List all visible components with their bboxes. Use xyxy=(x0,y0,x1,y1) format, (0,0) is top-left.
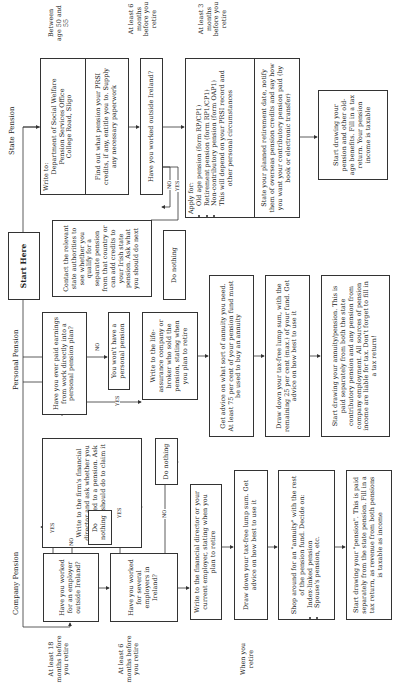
company-do-nothing-2-text: Do nothing xyxy=(163,444,171,480)
state-do-nothing-text: Do nothing xyxy=(171,247,179,283)
state-write-dept: Write to: Department of Social Welfare P… xyxy=(40,58,129,195)
no-label-company-2: NO xyxy=(162,509,167,519)
state-apply-section: Apply for: Old age pension (form RP/CP1)… xyxy=(186,59,254,217)
company-start-drawing: Start drawing your "pension". This is pa… xyxy=(346,470,392,620)
timeline-18-months: At least 18 months before you retire xyxy=(48,634,71,684)
company-q-several-text: Have you worked for several employers in… xyxy=(128,557,159,618)
state-address: Department of Social Welfare Pension Ser… xyxy=(51,62,74,191)
start-here-label: Start Here xyxy=(19,244,28,288)
personal-q-paid-text: Have you ever paid earnings from work di… xyxy=(53,316,76,411)
state-find-out-text: Find out what pension your PRSI credits,… xyxy=(95,62,118,191)
company-write-director: Write to the financial director or your … xyxy=(190,484,222,620)
state-apply-note: This will depend on your PRSI record and… xyxy=(219,62,235,214)
pension-flowchart: Start Here Company Pension Personal Pens… xyxy=(0,0,400,687)
personal-q-paid: Have you ever paid earnings from work di… xyxy=(42,312,87,415)
personal-write-insurer: Write to the life-assurance company or b… xyxy=(142,312,198,400)
state-q-outside-text: Have you worked outside Ireland? xyxy=(148,71,156,182)
company-q-several-employers: Have you worked for several employers in… xyxy=(110,553,178,622)
personal-write-insurer-text: Write to the life-assurance company or b… xyxy=(150,316,189,396)
yes-label-state: YES xyxy=(175,180,180,192)
personal-get-advice-text: Get advice on what sort of annuity you n… xyxy=(220,279,243,433)
timeline-age-50-55: Between age 50 and 55 xyxy=(48,5,71,41)
timeline-when-retire: When you retire xyxy=(240,636,255,682)
company-start-drawing-text: Start drawing your "pension". This is pa… xyxy=(353,474,384,616)
state-address-line-3: College Road, Sligo xyxy=(66,62,74,191)
state-do-nothing: Do nothing xyxy=(163,230,186,300)
timeline-3-months-state: At least 3 months before you retire xyxy=(198,1,229,37)
company-pension-title: Company Pension xyxy=(12,552,20,615)
company-shop-around-text: Shop around for an "annuity" with the re… xyxy=(291,474,307,616)
company-write-director-text: Write to the financial director or your … xyxy=(194,488,217,616)
personal-no-pension: You won't have a personal pension xyxy=(108,312,130,390)
no-label-state: NO xyxy=(167,180,172,190)
shop-option-spouse: Spouse's pension, etc. xyxy=(314,536,322,608)
state-contact-authorities: Contact the relevant state authorities t… xyxy=(52,220,152,297)
state-pension-title: State Pension xyxy=(8,106,16,155)
company-q-outside-text: Have you worked for an employer outside … xyxy=(59,557,82,618)
company-shop-options: Index-linked pension Spouse's pension, e… xyxy=(307,536,323,616)
personal-no-pension-text: You won't have a personal pension xyxy=(111,316,127,386)
timeline-6-months-company: At least 6 months before you retire xyxy=(118,634,141,684)
state-address-section: Write to: Department of Social Welfare P… xyxy=(41,59,85,194)
state-apply-box: Apply for: Old age pension (form RP/CP1)… xyxy=(185,58,300,218)
company-shop-around: Shop around for an "annuity" with the re… xyxy=(278,470,335,620)
start-here-box: Start Here xyxy=(8,232,40,300)
company-draw-down: Draw down your tax-free lump sum. Get ad… xyxy=(234,470,268,620)
personal-draw-down-text: Draw down your tax-free lump sum, with t… xyxy=(276,279,299,433)
yes-label-personal: YES xyxy=(115,395,120,407)
personal-get-advice: Get advice on what sort of annuity you n… xyxy=(209,275,254,437)
no-label-company-1: NO xyxy=(69,537,74,547)
state-contact-text: Contact the relevant state authorities t… xyxy=(63,224,141,293)
personal-start-drawing: Start drawing your annuity/pension. This… xyxy=(321,275,390,437)
company-do-nothing-1: Do nothing xyxy=(88,510,112,545)
yes-label-company-2: YES xyxy=(117,507,122,519)
company-do-nothing-2: Do nothing xyxy=(155,438,178,485)
company-q-outside-ireland: Have you worked for an employer outside … xyxy=(43,553,99,622)
state-start-drawing: Start drawing your pension and other old… xyxy=(318,90,388,180)
state-date-section: State your planned retirement date, noti… xyxy=(254,59,299,217)
personal-start-drawing-text: Start drawing your annuity/pension. This… xyxy=(332,279,379,433)
company-do-nothing-1-text: Do nothing xyxy=(92,514,108,541)
timeline-6-months-state: At least 6 months before you retire xyxy=(128,1,159,37)
no-label-personal: NO xyxy=(95,342,100,352)
state-apply-list: Old age pension (form RP/CP1) Retirement… xyxy=(196,62,219,214)
state-q-outside-ireland: Have you worked outside Ireland? xyxy=(140,58,163,195)
company-draw-down-text: Draw down your tax-free lump sum. Get ad… xyxy=(243,474,259,616)
yes-label-company-1: YES xyxy=(50,522,55,534)
state-start-drawing-text: Start drawing your pension and other old… xyxy=(333,94,372,176)
personal-pension-title: Personal Pension xyxy=(12,330,20,390)
state-find-out-section: Find out what pension your PRSI credits,… xyxy=(85,59,128,194)
personal-draw-down: Draw down your tax-free lump sum, with t… xyxy=(265,275,310,437)
state-date-text: State your planned retirement date, noti… xyxy=(261,62,292,214)
